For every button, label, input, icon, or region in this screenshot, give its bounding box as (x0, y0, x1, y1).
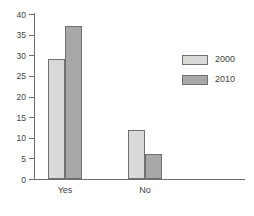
plot-area: 40 35 30 25 20 15 10 5 (0, 0, 254, 216)
legend-item-2010: 2010 (182, 74, 235, 85)
y-axis-tick-label: 25 (17, 72, 26, 81)
bar-no-2000 (128, 130, 145, 180)
bar-no-2010 (145, 154, 162, 179)
y-axis-tick-label: 30 (17, 52, 26, 61)
x-axis-category-label-yes: Yes (58, 186, 73, 195)
y-axis-tick-label: 20 (17, 93, 26, 102)
y-axis-tick-label: 15 (17, 113, 26, 122)
y-axis-tick-label: 10 (17, 134, 26, 143)
legend-label-2000: 2000 (215, 55, 235, 64)
y-axis-line (34, 13, 35, 180)
legend-label-2010: 2010 (215, 75, 235, 84)
legend-swatch-icon-2010 (182, 75, 208, 85)
y-axis-tick: 40 (29, 14, 34, 15)
legend-item-2000: 2000 (182, 54, 235, 65)
y-axis-tick: 15 (29, 117, 34, 118)
bar-chart: 40 35 30 25 20 15 10 5 (0, 0, 254, 216)
y-axis-tick: 20 (29, 97, 34, 98)
y-axis-tick-label: 0 (21, 175, 26, 184)
y-axis-tick-label: 40 (17, 10, 26, 19)
y-axis-tick: 35 (29, 35, 34, 36)
y-axis-tick: 5 (29, 158, 34, 159)
y-axis-tick: 10 (29, 138, 34, 139)
y-axis-tick: 25 (29, 76, 34, 77)
bar-yes-2010 (65, 26, 82, 179)
y-axis-tick: 30 (29, 55, 34, 56)
x-axis-category-label-no: No (139, 186, 151, 195)
y-axis-tick-label: 35 (17, 31, 26, 40)
y-axis-tick: 0 (29, 179, 34, 180)
legend: 2000 2010 (182, 54, 235, 85)
bar-yes-2000 (48, 59, 65, 179)
x-axis-line (34, 179, 245, 180)
legend-swatch-icon-2000 (182, 55, 208, 65)
y-axis-tick-label: 5 (21, 155, 26, 164)
